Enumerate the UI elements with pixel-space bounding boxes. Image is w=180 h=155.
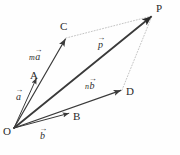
overarrow-icon: → [35,46,42,54]
label-nb-scalar: n [85,82,89,91]
label-a-symbol: →a [16,92,21,102]
label-ma-scalar: m [29,53,35,62]
point-label-o: O [3,126,11,137]
label-p-symbol: →p [98,40,103,50]
label-nb-symbol: →b [90,81,95,91]
overarrow-icon: → [89,75,96,83]
label-ma: m→a [29,52,40,62]
overarrow-icon: → [39,125,46,133]
point-label-c: C [60,21,67,32]
label-ma-symbol: →a [35,52,40,62]
label-b-symbol: →b [40,131,45,141]
overarrow-icon: → [15,86,22,94]
point-label-d: D [126,86,134,97]
vector-arrow-od [14,90,121,128]
overarrow-icon: → [97,34,104,42]
point-label-a: A [30,70,38,81]
point-label-p: P [156,3,162,14]
label-nb: n→b [85,81,95,91]
label-p: →p [98,40,103,50]
point-label-b: B [73,111,80,122]
label-b: →b [40,131,45,141]
label-a: →a [16,92,21,102]
vector-diagram: OACBDP →am→a→bn→b→p [0,0,180,155]
